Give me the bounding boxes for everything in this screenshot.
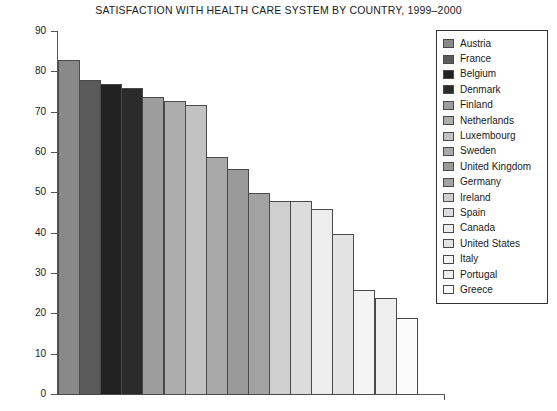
legend-swatch-icon: [443, 39, 454, 48]
legend-item-label: Denmark: [460, 85, 501, 95]
legend-swatch-icon: [443, 85, 454, 94]
legend-item[interactable]: Germany: [443, 175, 543, 190]
legend-item-label: United States: [460, 239, 520, 249]
bar: [164, 101, 186, 395]
legend-item[interactable]: Sweden: [443, 144, 543, 159]
legend-item-label: Italy: [460, 254, 478, 264]
bar-chart: SATISFACTION WITH HEALTH CARE SYSTEM BY …: [0, 0, 557, 411]
legend-item-label: Netherlands: [460, 116, 514, 126]
legend-swatch-icon: [443, 255, 454, 264]
legend-swatch-icon: [443, 116, 454, 125]
bar: [185, 105, 207, 395]
legend-item-label: Austria: [460, 39, 491, 49]
legend-item[interactable]: Denmark: [443, 82, 543, 97]
legend-swatch-icon: [443, 224, 454, 233]
legend-item-label: Belgium: [460, 69, 496, 79]
y-axis-tick-label: 40: [0, 228, 46, 238]
legend-item-label: Canada: [460, 223, 495, 233]
legend-swatch-icon: [443, 208, 454, 217]
bar: [269, 201, 291, 395]
bar: [290, 201, 312, 395]
legend-item[interactable]: Portugal: [443, 267, 543, 282]
legend-item[interactable]: Greece: [443, 282, 543, 297]
legend-item[interactable]: Belgium: [443, 67, 543, 82]
legend-item-label: Ireland: [460, 193, 491, 203]
legend-swatch-icon: [443, 162, 454, 171]
legend-item[interactable]: Italy: [443, 251, 543, 266]
bar: [311, 209, 333, 395]
legend-swatch-icon: [443, 178, 454, 187]
y-axis-tick-label: 80: [0, 66, 46, 76]
legend-item-label: United Kingdom: [460, 162, 531, 172]
legend-item-label: Spain: [460, 208, 486, 218]
legend-item[interactable]: Spain: [443, 205, 543, 220]
legend-swatch-icon: [443, 55, 454, 64]
legend-item[interactable]: United Kingdom: [443, 159, 543, 174]
bar: [79, 80, 101, 395]
y-axis-tick-label: 50: [0, 187, 46, 197]
bar: [142, 97, 164, 395]
bar: [332, 234, 354, 395]
legend-item-label: Portugal: [460, 270, 497, 280]
bar: [375, 298, 397, 395]
legend-swatch-icon: [443, 132, 454, 141]
legend-swatch-icon: [443, 101, 454, 110]
legend-swatch-icon: [443, 285, 454, 294]
legend-item-label: Germany: [460, 177, 501, 187]
bar: [248, 193, 270, 395]
y-axis-tick-label: 10: [0, 349, 46, 359]
legend-item[interactable]: Ireland: [443, 190, 543, 205]
legend-item[interactable]: Austria: [443, 36, 543, 51]
legend-item-label: Luxembourg: [460, 131, 516, 141]
chart-title: SATISFACTION WITH HEALTH CARE SYSTEM BY …: [0, 4, 557, 16]
legend-item[interactable]: Netherlands: [443, 113, 543, 128]
legend-item-label: Finland: [460, 100, 493, 110]
y-axis-tick-label: 90: [0, 26, 46, 36]
bar: [100, 84, 122, 395]
legend-item[interactable]: Canada: [443, 221, 543, 236]
legend-swatch-icon: [443, 193, 454, 202]
legend-swatch-icon: [443, 147, 454, 156]
bar-series: [58, 31, 445, 395]
y-axis-tick-label: 20: [0, 308, 46, 318]
bar: [396, 318, 418, 395]
y-axis-tick-label: 70: [0, 107, 46, 117]
legend-item[interactable]: France: [443, 51, 543, 66]
legend-item-label: Sweden: [460, 146, 496, 156]
legend-swatch-icon: [443, 70, 454, 79]
legend-item[interactable]: United States: [443, 236, 543, 251]
bar: [227, 169, 249, 395]
legend-item[interactable]: Finland: [443, 98, 543, 113]
bar: [353, 290, 375, 395]
y-axis-tick-label: 60: [0, 147, 46, 157]
legend-swatch-icon: [443, 270, 454, 279]
legend-item-label: Greece: [460, 285, 493, 295]
bar: [58, 60, 80, 395]
bar: [121, 88, 143, 395]
legend-item[interactable]: Luxembourg: [443, 128, 543, 143]
legend-item-label: France: [460, 54, 491, 64]
legend: AustriaFranceBelgiumDenmarkFinlandNether…: [436, 30, 548, 304]
y-axis-tick-label: 30: [0, 268, 46, 278]
bar: [206, 157, 228, 395]
legend-swatch-icon: [443, 239, 454, 248]
y-axis-tick-label: 0: [0, 389, 46, 399]
